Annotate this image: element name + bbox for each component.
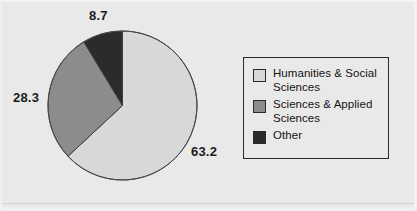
pie-value-label-humanities: 63.2: [191, 144, 217, 159]
pie-svg: [47, 30, 198, 181]
legend-item-other: Other: [253, 129, 385, 144]
legend-swatch-sciences-icon: [253, 100, 266, 113]
figure-bottom-rule: [3, 203, 414, 204]
legend-label-humanities: Humanities & Social Sciences: [273, 67, 385, 94]
legend-label-sciences: Sciences & Applied Sciences: [273, 98, 385, 125]
pie-value-label-other: 8.7: [89, 8, 108, 23]
legend-swatch-other-icon: [253, 131, 266, 144]
pie-chart: [47, 30, 198, 181]
legend-swatch-humanities-icon: [253, 69, 266, 82]
pie-chart-figure: 8.7 28.3 63.2 Humanities & Social Scienc…: [0, 0, 417, 211]
pie-value-label-sciences: 28.3: [13, 90, 39, 105]
legend-item-humanities: Humanities & Social Sciences: [253, 67, 385, 94]
legend-label-other: Other: [273, 129, 302, 143]
legend-item-sciences: Sciences & Applied Sciences: [253, 98, 385, 125]
chart-legend: Humanities & Social Sciences Sciences & …: [243, 57, 389, 159]
